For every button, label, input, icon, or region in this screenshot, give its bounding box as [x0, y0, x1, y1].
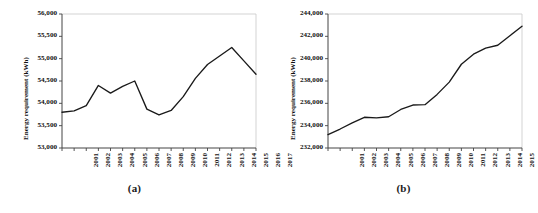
subfigure-caption-b: (b): [269, 182, 538, 194]
chart-a: Energy requirement (kWh) 56,00055,50055,…: [0, 0, 269, 182]
plot-area-b: [269, 0, 538, 182]
plot-axes: [328, 14, 522, 148]
plot-frame-light: [62, 14, 256, 148]
data-series-line: [328, 26, 522, 134]
plot-frame-light: [328, 14, 522, 148]
figure-row: Energy requirement (kWh) 56,00055,50055,…: [0, 0, 538, 213]
subfigure-caption-a: (a): [0, 182, 269, 194]
chart-b: Energy requirement (kWh) 244,000242,0002…: [269, 0, 538, 182]
plot-axes: [62, 14, 256, 148]
data-series-line: [62, 48, 256, 115]
chart-panel-a: Energy requirement (kWh) 56,00055,50055,…: [0, 0, 269, 213]
chart-panel-b: Energy requirement (kWh) 244,000242,0002…: [269, 0, 538, 213]
plot-area-a: [0, 0, 269, 182]
